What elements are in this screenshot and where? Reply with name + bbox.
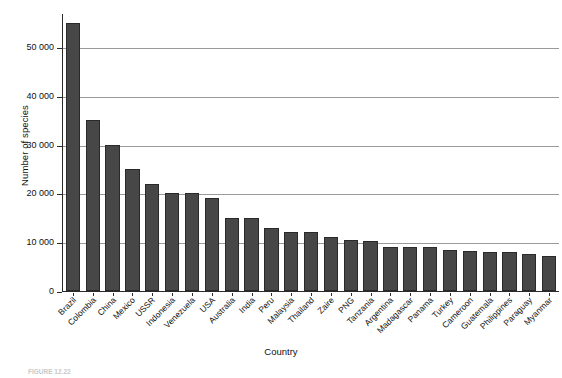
x-axis-tick: [371, 293, 372, 296]
figure-bar-chart-number-of-species-by-country: Number of species 010 00020 00030 00040 …: [0, 0, 562, 378]
x-axis-tick: [351, 293, 352, 296]
bar[interactable]: [423, 247, 437, 291]
x-axis-tick: [192, 293, 193, 296]
bar[interactable]: [86, 120, 100, 291]
y-axis-tick-label: 10 000: [0, 237, 54, 247]
bar[interactable]: [264, 228, 278, 291]
x-axis-tick: [529, 293, 530, 296]
x-tick-cell: Panama: [420, 293, 440, 349]
bar[interactable]: [324, 237, 338, 291]
bar-cell: [440, 14, 460, 291]
bar[interactable]: [542, 256, 556, 291]
y-axis-tick-label: 50 000: [0, 42, 54, 52]
bar-cell: [63, 14, 83, 291]
x-axis-tick-labels: BrazilColombiaChinaMexicoUSSRIndonesiaVe…: [63, 293, 559, 349]
bar[interactable]: [463, 251, 477, 291]
bar-cell: [321, 14, 341, 291]
bar[interactable]: [284, 232, 298, 291]
bar[interactable]: [185, 193, 199, 291]
bar-cell: [400, 14, 420, 291]
bar-cell: [519, 14, 539, 291]
x-axis-tick: [132, 293, 133, 296]
bar-cell: [281, 14, 301, 291]
bar-cell: [142, 14, 162, 291]
bar-cell: [460, 14, 480, 291]
x-axis-tick: [430, 293, 431, 296]
bar[interactable]: [125, 169, 139, 291]
bar-cell: [103, 14, 123, 291]
bar-cell: [222, 14, 242, 291]
bar[interactable]: [205, 198, 219, 291]
bar-cell: [500, 14, 520, 291]
bar-series: [63, 14, 559, 291]
y-axis-tick-label: 40 000: [0, 91, 54, 101]
bar[interactable]: [244, 218, 258, 291]
x-tick-cell: Australia: [222, 293, 242, 349]
y-axis-tick: [57, 292, 62, 293]
x-axis-title: Country: [0, 346, 562, 357]
x-axis-line: [62, 291, 559, 292]
bar-cell: [480, 14, 500, 291]
bar-cell: [381, 14, 401, 291]
x-axis-tick: [232, 293, 233, 296]
x-axis-tick: [271, 293, 272, 296]
bar[interactable]: [403, 247, 417, 291]
x-axis-tick: [509, 293, 510, 296]
x-tick-cell: India: [242, 293, 262, 349]
bar[interactable]: [483, 252, 497, 292]
bar-cell: [182, 14, 202, 291]
y-axis-tick-label: 30 000: [0, 140, 54, 150]
x-axis-tick: [410, 293, 411, 296]
bar[interactable]: [304, 232, 318, 291]
bar[interactable]: [145, 184, 159, 291]
x-axis-tick: [549, 293, 550, 296]
x-tick-cell: Venezuela: [182, 293, 202, 349]
bar-cell: [202, 14, 222, 291]
bar[interactable]: [522, 254, 536, 291]
x-axis-tick: [93, 293, 94, 296]
y-axis-tick-label: 20 000: [0, 188, 54, 198]
bar[interactable]: [363, 241, 377, 291]
bar-cell: [83, 14, 103, 291]
y-axis-tick-label: 0: [0, 286, 54, 296]
x-axis-tick: [172, 293, 173, 296]
plot-area: [62, 14, 559, 292]
bar[interactable]: [344, 240, 358, 291]
bar-cell: [539, 14, 559, 291]
x-axis-tick: [311, 293, 312, 296]
bar[interactable]: [105, 145, 119, 291]
x-axis-tick: [113, 293, 114, 296]
x-tick-cell: Zaire: [321, 293, 341, 349]
bar[interactable]: [66, 23, 80, 291]
bar[interactable]: [165, 193, 179, 291]
x-axis-tick: [291, 293, 292, 296]
bar[interactable]: [443, 250, 457, 291]
x-axis-tick: [390, 293, 391, 296]
bar-cell: [162, 14, 182, 291]
x-tick-cell: China: [103, 293, 123, 349]
x-axis-tick: [331, 293, 332, 296]
x-tick-cell: Colombia: [83, 293, 103, 349]
x-axis-tick: [152, 293, 153, 296]
bar-cell: [123, 14, 143, 291]
x-axis-tick: [212, 293, 213, 296]
bar[interactable]: [383, 247, 397, 291]
figure-number: FIGURE 12.22: [28, 368, 71, 375]
x-axis-tick: [73, 293, 74, 296]
figure-caption: FIGURE 12.22: [28, 368, 548, 375]
bar-cell: [420, 14, 440, 291]
x-tick-cell: Thailand: [301, 293, 321, 349]
x-tick-cell: Mexico: [123, 293, 143, 349]
x-axis-tick: [252, 293, 253, 296]
bar-cell: [341, 14, 361, 291]
bar-cell: [242, 14, 262, 291]
bar-cell: [361, 14, 381, 291]
bar[interactable]: [225, 218, 239, 291]
bar-cell: [301, 14, 321, 291]
bar[interactable]: [502, 252, 516, 291]
bar-cell: [261, 14, 281, 291]
x-tick-cell: Myanmar: [539, 293, 559, 349]
x-axis-tick: [450, 293, 451, 296]
